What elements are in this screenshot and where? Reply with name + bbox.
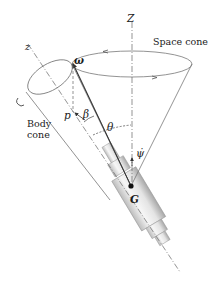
p-label: p	[64, 110, 71, 121]
z-axis-label: z	[25, 42, 30, 52]
center-of-mass-point	[128, 183, 133, 188]
beta-label: β	[83, 109, 89, 120]
omega-vector	[73, 64, 131, 186]
body-cone-label-line1: Body	[27, 119, 51, 129]
Z-axis-label: Z	[127, 13, 134, 24]
z-axis	[28, 44, 180, 272]
psi-dot-label: ψ̇	[136, 148, 144, 159]
body-cone-label-line2: cone	[27, 130, 50, 140]
precession-diagram: Z z Space cone Body cone ω p β θ ψ̇ G	[0, 0, 218, 289]
theta-label: θ	[107, 122, 113, 133]
spin-direction-arrow-icon	[17, 98, 24, 106]
G-label: G	[130, 194, 139, 205]
omega-label: ω	[74, 55, 84, 66]
space-cone-label: Space cone	[153, 37, 208, 47]
space-cone-direction-arrow-bottom	[152, 76, 157, 79]
